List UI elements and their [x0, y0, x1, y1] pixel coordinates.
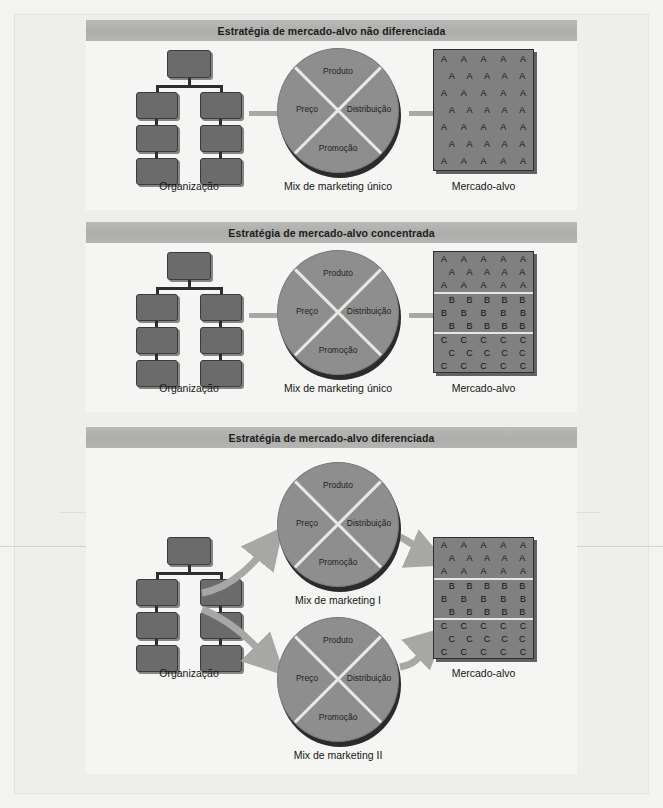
- market-letter: B: [519, 295, 525, 305]
- caption-mix: Mix de marketing único: [258, 382, 418, 394]
- market-letter: A: [461, 566, 467, 576]
- org-box: [200, 612, 242, 639]
- org-connector: [156, 572, 223, 575]
- market-letter-row: BBBBB: [434, 307, 533, 320]
- org-box: [200, 327, 242, 354]
- market-letter: C: [480, 647, 487, 657]
- market-letter: A: [484, 105, 490, 115]
- pie-label-preco: Preço: [281, 306, 333, 316]
- market-letter: A: [484, 553, 490, 563]
- market-letter: C: [484, 634, 491, 644]
- market-letter: B: [449, 581, 455, 591]
- market-letter: A: [480, 54, 486, 64]
- market-letter: C: [520, 335, 527, 345]
- market-letter: B: [466, 321, 472, 331]
- pie-label-preco: Preço: [281, 518, 333, 528]
- panel-title: Estratégia de mercado-alvo não diferenci…: [218, 25, 446, 37]
- market-letter: C: [441, 335, 448, 345]
- pie-label-promocao: Promoção: [277, 345, 399, 355]
- org-box: [200, 294, 242, 321]
- market-segment-a: AAAAAAAAAAAAAAAAAAAAAAAAAAAAAAAAAAA: [434, 50, 533, 170]
- market-letter-row: AAAAA: [434, 101, 533, 118]
- market-letter: C: [460, 361, 467, 371]
- panel-undifferentiated: Estratégia de mercado-alvo não diferenci…: [86, 20, 577, 210]
- market-letter: B: [519, 607, 525, 617]
- caption-mercado-alvo: Mercado-alvo: [426, 667, 541, 679]
- market-letter: A: [461, 54, 467, 64]
- market-letter: A: [441, 156, 447, 166]
- org-box: [200, 92, 242, 119]
- caption-mercado-alvo: Mercado-alvo: [426, 180, 541, 192]
- pie-label-produto: Produto: [277, 480, 399, 490]
- market-letter: A: [441, 540, 447, 550]
- market-letter: A: [441, 280, 447, 290]
- market-letter: A: [449, 267, 455, 277]
- panel-title-band: Estratégia de mercado-alvo não diferenci…: [86, 20, 577, 41]
- market-letter-row: BBBBB: [434, 593, 533, 606]
- market-letter-row: BBBBB: [434, 319, 533, 332]
- market-letter-row: AAAAA: [434, 84, 533, 101]
- org-connector: [156, 287, 223, 290]
- org-box: [136, 579, 178, 606]
- org-box: [200, 125, 242, 152]
- pie-label-promocao: Promoção: [277, 712, 399, 722]
- market-letter: B: [449, 295, 455, 305]
- market-letter: C: [520, 361, 527, 371]
- market-letter: B: [480, 594, 486, 604]
- market-letter: B: [519, 581, 525, 591]
- panel-differentiated: Estratégia de mercado-alvo diferenciada …: [86, 427, 577, 774]
- arrow-mix1-to-market: [400, 537, 432, 558]
- caption-mix-2: Mix de marketing II: [258, 749, 418, 761]
- market-letter: C: [466, 634, 473, 644]
- market-letter: C: [500, 361, 507, 371]
- market-letter-row: CCCCC: [434, 645, 533, 658]
- market-letter-row: AAAAA: [434, 67, 533, 84]
- pie-label-promocao: Promoção: [277, 143, 399, 153]
- caption-mix: Mix de marketing único: [258, 180, 418, 192]
- market-letter-row: CCCCC: [434, 334, 533, 347]
- market-letter: C: [501, 634, 508, 644]
- market-letter: A: [519, 105, 525, 115]
- org-box: [136, 612, 178, 639]
- market-letter: B: [502, 321, 508, 331]
- market-letter-row: CCCCC: [434, 633, 533, 646]
- market-letter-row: AAAAA: [434, 119, 533, 136]
- marketing-mix-pie-1: Produto Preço Distribuição Promoção: [277, 462, 399, 587]
- org-box: [200, 579, 242, 606]
- market-letter: A: [466, 139, 472, 149]
- market-letter: C: [500, 647, 507, 657]
- market-letter: A: [500, 54, 506, 64]
- org-chart: [134, 537, 244, 662]
- market-letter-row: AAAAA: [434, 565, 533, 578]
- caption-organizacao: Organização: [134, 180, 244, 192]
- marketing-mix-pie-2: Produto Preço Distribuição Promoção: [277, 617, 399, 742]
- market-letter-row: CCCCC: [434, 620, 533, 633]
- pie-label-distribuicao: Distribuição: [339, 306, 399, 316]
- market-letter: A: [520, 566, 526, 576]
- market-letter: A: [480, 122, 486, 132]
- market-letter: A: [520, 254, 526, 264]
- market-letter-row: AAAAA: [434, 551, 533, 564]
- market-letter: B: [449, 321, 455, 331]
- market-letter: C: [460, 647, 467, 657]
- org-box: [136, 294, 178, 321]
- market-letter: C: [480, 335, 487, 345]
- market-segment-b: BBBBBBBBBBBBBBB: [434, 578, 533, 618]
- market-letter: C: [480, 621, 487, 631]
- org-box-top: [167, 537, 211, 565]
- market-segment-b: BBBBBBBBBBBBBBB: [434, 292, 533, 332]
- market-letter: B: [441, 308, 447, 318]
- market-letter: B: [500, 308, 506, 318]
- panel-title: Estratégia de mercado-alvo diferenciada: [229, 432, 435, 444]
- target-market-grid: AAAAAAAAAAAAAAABBBBBBBBBBBBBBBCCCCCCCCCC…: [433, 251, 534, 373]
- market-letter: A: [484, 71, 490, 81]
- marketing-mix-pie: Produto Preço Distribuição Promoção: [277, 48, 399, 173]
- market-letter: B: [461, 308, 467, 318]
- market-letter: A: [441, 88, 447, 98]
- pie-label-preco: Preço: [281, 104, 333, 114]
- market-letter: C: [520, 647, 527, 657]
- market-letter: A: [461, 280, 467, 290]
- pie-label-produto: Produto: [277, 66, 399, 76]
- pie-label-distribuicao: Distribuição: [339, 104, 399, 114]
- market-letter: B: [502, 295, 508, 305]
